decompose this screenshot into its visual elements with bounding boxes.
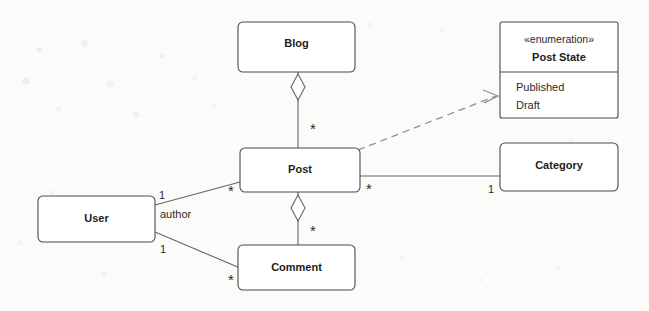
multiplicity-user-post-target: * xyxy=(228,182,234,199)
relationship-post-poststate[interactable] xyxy=(358,90,498,150)
multiplicity-user-comment-source: 1 xyxy=(160,243,166,255)
class-name-blog: Blog xyxy=(284,37,308,49)
role-label-author: author xyxy=(160,208,192,220)
multiplicity-post-category-target: 1 xyxy=(488,183,494,195)
multiplicity-post-comment-target: * xyxy=(310,222,316,239)
class-name-user: User xyxy=(84,212,109,224)
class-box-comment[interactable]: Comment xyxy=(238,245,355,290)
relationship-user-post[interactable]: 1 author * xyxy=(155,182,240,220)
class-name-category: Category xyxy=(535,159,584,171)
class-name-post-state: Post State xyxy=(532,51,586,63)
multiplicity-blog-post-target: * xyxy=(310,120,316,137)
class-stereotype-post-state: «enumeration» xyxy=(524,33,594,45)
relationship-user-comment-line xyxy=(155,232,240,268)
relationship-post-comment[interactable]: * xyxy=(291,192,316,245)
class-box-post-state[interactable]: «enumeration» Post State Published Draft xyxy=(500,22,618,118)
class-box-blog[interactable]: Blog xyxy=(238,22,355,72)
relationship-post-poststate-line xyxy=(358,96,496,150)
class-name-comment: Comment xyxy=(271,261,322,273)
uml-diagram-svg: * * * 1 1 author * 1 * xyxy=(0,0,649,311)
uml-diagram-canvas: * * * 1 1 author * 1 * xyxy=(0,0,649,311)
enum-literal-draft: Draft xyxy=(516,99,540,111)
class-box-category[interactable]: Category xyxy=(500,143,618,191)
dependency-arrowhead-icon xyxy=(483,90,498,103)
multiplicity-user-comment-target: * xyxy=(228,271,234,288)
relationship-post-category[interactable]: * 1 xyxy=(360,176,500,197)
class-box-post[interactable]: Post xyxy=(240,148,360,192)
aggregation-diamond-post xyxy=(291,195,305,221)
relationship-blog-post[interactable]: * xyxy=(291,72,316,148)
relationship-user-comment[interactable]: 1 * xyxy=(155,232,240,288)
multiplicity-post-category-source: * xyxy=(366,180,372,197)
aggregation-diamond-blog xyxy=(291,74,305,100)
enum-literal-published: Published xyxy=(516,81,564,93)
class-name-post: Post xyxy=(288,163,312,175)
multiplicity-user-post-source: 1 xyxy=(159,189,165,201)
class-box-user[interactable]: User xyxy=(38,196,155,242)
